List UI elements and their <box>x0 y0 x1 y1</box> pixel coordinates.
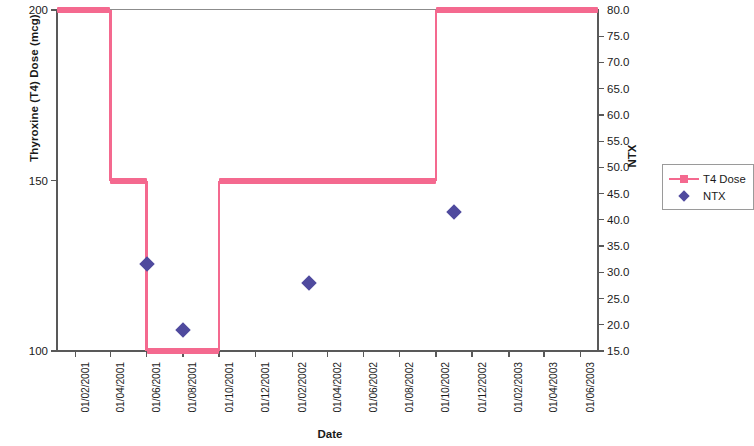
x-axis-tick <box>110 351 111 357</box>
ntx-data-point <box>301 275 317 291</box>
y-axis-right-tick <box>598 36 604 37</box>
x-axis-tick-label: 01/08/2002 <box>404 362 415 413</box>
y-axis-right-tick <box>598 114 604 115</box>
y-axis-right-tick-label: 50.0 <box>607 161 629 173</box>
y-axis-right-tick <box>598 88 604 89</box>
ntx-data-point <box>175 322 191 338</box>
x-axis-tick <box>363 351 364 357</box>
y-axis-right-tick-label: 70.0 <box>607 56 629 68</box>
t4-dose-step-riser <box>109 10 112 181</box>
y-axis-right-tick <box>598 324 604 325</box>
chart-legend: T4 DoseNTX <box>662 164 754 210</box>
x-axis-tick-label: 01/06/2001 <box>151 362 162 413</box>
x-axis-tick-label: 01/10/2001 <box>224 362 235 413</box>
x-axis-tick <box>471 351 472 357</box>
x-axis-tick <box>292 351 293 357</box>
y-axis-right-tick-label: 20.0 <box>607 319 629 331</box>
t4-dose-step-segment <box>147 348 219 354</box>
y-axis-right-tick <box>598 62 604 63</box>
x-axis-tick-label: 01/08/2001 <box>187 362 198 413</box>
y-axis-right-tick <box>598 298 604 299</box>
x-axis-tick-label: 01/02/2003 <box>513 362 524 413</box>
y-axis-right-tick-label: 80.0 <box>607 4 629 16</box>
t4-dose-step-riser <box>218 181 221 352</box>
y-axis-right-tick-label: 15.0 <box>607 345 629 357</box>
y-axis-right-tick-label: 30.0 <box>607 266 629 278</box>
x-axis-tick-label: 01/06/2002 <box>368 362 379 413</box>
x-axis-tick <box>543 351 544 357</box>
x-axis-tick <box>75 351 76 357</box>
y-axis-left-tick-label: 100 <box>29 345 48 357</box>
y-axis-right-tick <box>598 167 604 168</box>
y-axis-right-tick <box>598 193 604 194</box>
y-axis-right-tick-label: 75.0 <box>607 30 629 42</box>
t4-dose-step-segment <box>110 178 146 184</box>
y-axis-right-tick <box>598 272 604 273</box>
y-axis-right-tick-label: 35.0 <box>607 240 629 252</box>
t4-dose-step-segment <box>57 7 110 13</box>
x-axis-tick <box>580 351 581 357</box>
x-axis-tick-label: 01/12/2002 <box>477 362 488 413</box>
y-axis-left-tick-label: 150 <box>29 175 48 187</box>
x-axis-tick-label: 01/02/2002 <box>297 362 308 413</box>
y-axis-right-line <box>597 9 599 352</box>
legend-diamond-icon <box>669 190 699 202</box>
y-axis-right-tick-label: 55.0 <box>607 135 629 147</box>
y-axis-right-tick <box>598 219 604 220</box>
y-axis-left-tick-label: 200 <box>29 4 48 16</box>
y-axis-right-tick-label: 60.0 <box>607 109 629 121</box>
x-axis-tick <box>327 351 328 357</box>
diamond-icon <box>678 190 689 201</box>
y-axis-right-tick-label: 45.0 <box>607 188 629 200</box>
y-axis-right-tick-label: 65.0 <box>607 83 629 95</box>
y-axis-left-tick <box>51 180 57 181</box>
legend-item: NTX <box>669 187 753 204</box>
x-axis-tick-label: 01/04/2003 <box>548 362 559 413</box>
x-axis-title: Date <box>0 428 660 440</box>
t4-dose-step-segment <box>219 178 436 184</box>
x-axis-tick-label: 01/04/2001 <box>115 362 126 413</box>
x-axis-tick <box>255 351 256 357</box>
y-axis-right-tick <box>598 245 604 246</box>
x-axis-tick-label: 01/06/2003 <box>585 362 596 413</box>
y-axis-right-title: NTX <box>626 116 638 196</box>
y-axis-right-tick <box>598 141 604 142</box>
x-axis-tick-label: 01/04/2002 <box>332 362 343 413</box>
y-axis-left-tick <box>51 350 57 351</box>
x-axis-tick <box>399 351 400 357</box>
ntx-data-point <box>139 257 155 273</box>
y-axis-right-tick-label: 25.0 <box>607 293 629 305</box>
ntx-data-point <box>447 204 463 220</box>
x-axis-tick-label: 01/02/2001 <box>80 362 91 413</box>
legend-item: T4 Dose <box>669 170 753 187</box>
t4-dose-step-riser <box>435 10 438 181</box>
y-axis-right-tick-label: 40.0 <box>607 214 629 226</box>
legend-item-label: NTX <box>703 190 726 202</box>
x-axis-tick-label: 01/12/2001 <box>260 362 271 413</box>
x-axis-tick <box>435 351 436 357</box>
y-axis-right-tick <box>598 350 604 351</box>
legend-item-label: T4 Dose <box>703 173 746 185</box>
legend-square-icon <box>680 175 688 183</box>
t4-dose-step-segment <box>436 7 598 13</box>
x-axis-tick-label: 01/10/2002 <box>440 362 451 413</box>
x-axis-tick <box>508 351 509 357</box>
legend-line-square-icon <box>669 173 699 185</box>
